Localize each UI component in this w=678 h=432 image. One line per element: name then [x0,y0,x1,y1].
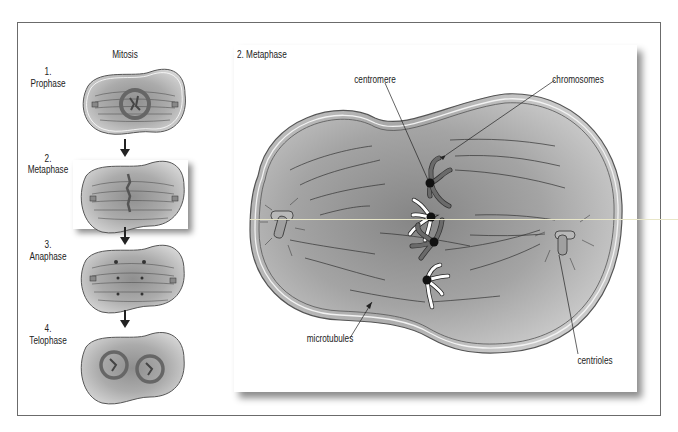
detail-panel-title: 2. Metaphase [237,49,294,61]
centrioles-label: centrioles [570,355,619,367]
scan-artifact-line [250,219,678,220]
metaphase-detail-illustration [0,0,678,432]
centromere-label: centromere [346,74,403,86]
cell-membrane [250,94,622,353]
chromosomes-label: chromosomes [545,74,611,86]
centromere-dot [426,179,435,188]
microtubules-label: microtubules [297,333,363,345]
